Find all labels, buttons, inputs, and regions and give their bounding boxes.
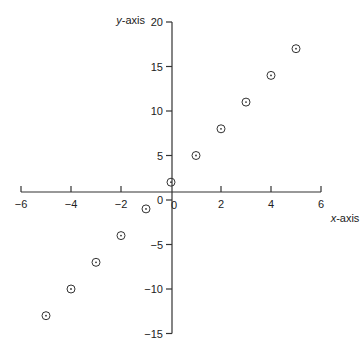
data-point bbox=[92, 258, 100, 266]
y-tick-label: −15 bbox=[144, 328, 163, 340]
marker-dot bbox=[270, 75, 272, 77]
data-point bbox=[267, 71, 275, 79]
axis-labels: −6−4−20246−15−10−505101520y-axisx-axis bbox=[15, 14, 360, 340]
y-tick-label: −5 bbox=[150, 239, 163, 251]
x-tick-label: −4 bbox=[65, 198, 78, 210]
data-point bbox=[292, 45, 300, 53]
marker-dot bbox=[295, 48, 297, 50]
marker-dot bbox=[195, 155, 197, 157]
x-tick-label: −2 bbox=[115, 198, 128, 210]
data-point bbox=[142, 205, 150, 213]
data-points bbox=[42, 45, 300, 320]
marker-dot bbox=[145, 208, 147, 210]
y-tick-label: 10 bbox=[151, 105, 163, 117]
y-axis-title: y-axis bbox=[115, 14, 145, 26]
marker-dot bbox=[120, 235, 122, 237]
x-tick-label: 4 bbox=[268, 198, 274, 210]
scatter-chart: −6−4−20246−15−10−505101520y-axisx-axis bbox=[0, 0, 361, 358]
y-tick-label: 15 bbox=[151, 61, 163, 73]
data-point bbox=[192, 152, 200, 160]
data-point bbox=[217, 125, 225, 133]
marker-dot bbox=[170, 181, 172, 183]
y-tick-label: 20 bbox=[151, 16, 163, 28]
x-tick-label: −6 bbox=[15, 198, 28, 210]
marker-dot bbox=[245, 101, 247, 103]
x-axis-title: x-axis bbox=[330, 212, 360, 224]
marker-dot bbox=[70, 288, 72, 290]
data-point bbox=[67, 285, 75, 293]
data-point bbox=[242, 98, 250, 106]
marker-dot bbox=[95, 261, 97, 263]
marker-dot bbox=[220, 128, 222, 130]
data-point bbox=[167, 178, 175, 186]
marker-dot bbox=[45, 315, 47, 317]
y-tick-label: 5 bbox=[157, 150, 163, 162]
x-tick-label: 0 bbox=[171, 199, 177, 211]
y-tick-label: −10 bbox=[144, 283, 163, 295]
y-tick-label: 0 bbox=[157, 194, 163, 206]
data-point bbox=[117, 232, 125, 240]
x-tick-label: 2 bbox=[218, 198, 224, 210]
x-tick-label: 6 bbox=[318, 198, 324, 210]
data-point bbox=[42, 312, 50, 320]
